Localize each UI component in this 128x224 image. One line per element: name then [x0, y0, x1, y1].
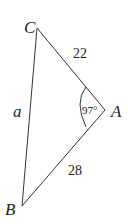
triangle-outline [22, 28, 105, 206]
triangle-diagram: C A B a 22 28 97° [0, 0, 128, 224]
vertex-label-b: B [5, 200, 16, 219]
side-label-ca: 22 [73, 46, 87, 61]
side-label-a: a [13, 102, 22, 121]
angle-label-a: 97° [82, 104, 97, 116]
vertex-label-a: A [110, 102, 122, 121]
vertex-label-c: C [24, 18, 36, 37]
side-label-ab: 28 [68, 163, 82, 178]
